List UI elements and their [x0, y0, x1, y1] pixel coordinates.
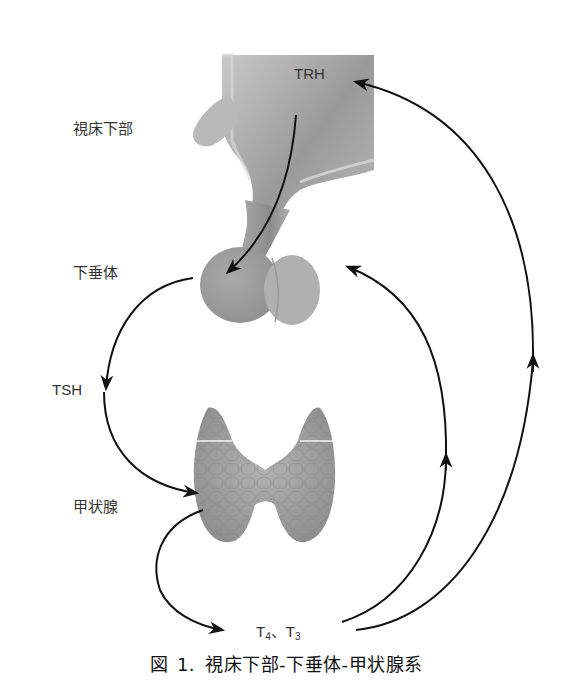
t4-letter: T: [256, 623, 265, 640]
t3-subscript: 3: [295, 631, 301, 642]
label-thyroid: 甲状腺: [73, 495, 118, 516]
hypothalamus-illustration: [193, 55, 374, 262]
separator: 、: [271, 623, 286, 640]
outer-feedback-to-hypothalamus: [356, 82, 533, 360]
label-pituitary: 下垂体: [73, 261, 118, 282]
inner-feedback-to-pituitary: [348, 267, 446, 460]
thyroid-illustration: [194, 408, 336, 543]
caption-title: 視床下部-下垂体-甲状腺系: [205, 654, 423, 675]
outer-feedback-curve: [356, 360, 533, 630]
inner-feedback-curve: [342, 460, 446, 622]
t3-letter: T: [286, 623, 295, 640]
label-tsh: TSH: [52, 381, 82, 398]
caption-number: 1.: [177, 654, 195, 675]
figure-caption: 図1.視床下部-下垂体-甲状腺系: [0, 650, 573, 676]
label-trh: TRH: [294, 65, 325, 82]
label-hypothalamus: 視床下部: [73, 117, 133, 138]
hpt-axis-diagram: [0, 0, 573, 696]
pituitary-to-tsh-arrow: [106, 278, 193, 388]
caption-prefix: 図: [150, 654, 169, 675]
pituitary-illustration: [200, 200, 320, 325]
tsh-to-thyroid-arrow: [104, 392, 196, 493]
label-t4-t3: T4、T3: [256, 620, 300, 642]
